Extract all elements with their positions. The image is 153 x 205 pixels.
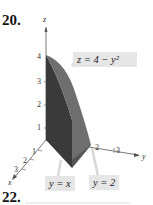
plane-y-equals-x-label: y = x — [45, 176, 75, 191]
surface-equation-label: z = 4 − y² — [73, 52, 137, 67]
leader-lines — [0, 0, 153, 205]
plane-y-equals-2-label: y = 2 — [89, 175, 119, 190]
next-problem-number: 22. — [2, 189, 21, 205]
next-problem-rule — [25, 202, 130, 204]
